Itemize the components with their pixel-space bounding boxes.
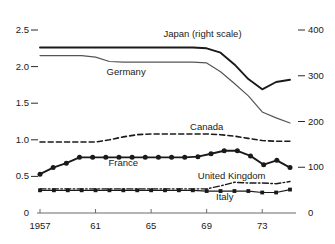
y-axis-tick-label-right: 300 xyxy=(308,71,324,81)
data-point-marker xyxy=(163,188,167,192)
chart-container: 00.51.01.52.02.5010020030040019576165697… xyxy=(0,0,335,244)
y-axis-tick-label-right: 100 xyxy=(308,162,324,172)
series-line-canada xyxy=(40,134,290,142)
x-axis-tick-label: 65 xyxy=(131,221,171,231)
y-axis-tick-label-left: 2.0 xyxy=(0,62,29,72)
data-point-marker xyxy=(260,191,264,195)
data-point-marker xyxy=(288,188,292,192)
data-point-marker xyxy=(51,165,56,170)
series-label-germany: Germany xyxy=(107,67,146,77)
data-point-marker xyxy=(177,188,181,192)
data-point-marker xyxy=(274,158,279,163)
data-point-marker xyxy=(222,148,227,153)
x-axis-tick-label: 69 xyxy=(187,221,227,231)
series-label-united-kingdom: United Kingdom xyxy=(198,171,266,181)
series-label-italy: Italy xyxy=(216,192,233,202)
series-label-japan-right-scale: Japan (right scale) xyxy=(163,29,241,39)
series-line-germany xyxy=(40,56,290,123)
series-label-canada: Canada xyxy=(190,122,223,132)
y-axis-tick-label-left: 2.5 xyxy=(0,25,29,35)
data-point-marker xyxy=(108,188,112,192)
data-point-marker xyxy=(195,154,200,159)
data-point-marker xyxy=(103,155,108,160)
data-point-marker xyxy=(149,188,153,192)
data-point-marker xyxy=(64,161,69,166)
data-point-marker xyxy=(182,155,187,160)
y-axis-tick-label-right: 200 xyxy=(308,117,324,127)
data-point-marker xyxy=(52,188,56,192)
data-point-marker xyxy=(77,155,82,160)
series-line-united-kingdom xyxy=(40,182,290,189)
y-axis-tick-label-left: 0 xyxy=(0,208,29,218)
data-point-marker xyxy=(38,172,43,177)
data-point-marker xyxy=(121,188,125,192)
data-point-marker xyxy=(235,148,240,153)
data-point-marker xyxy=(38,188,42,192)
data-point-marker xyxy=(205,189,209,193)
series-line-japan-right-scale xyxy=(40,48,290,90)
x-axis-tick-label: 61 xyxy=(76,221,116,231)
data-point-marker xyxy=(169,155,174,160)
data-point-marker xyxy=(191,188,195,192)
y-axis-tick-label-left: 1.0 xyxy=(0,135,29,145)
data-point-marker xyxy=(274,191,278,195)
data-point-marker xyxy=(156,155,161,160)
data-point-marker xyxy=(80,188,84,192)
data-point-marker xyxy=(209,151,214,156)
data-point-marker xyxy=(261,162,266,167)
data-point-marker xyxy=(66,188,70,192)
y-axis-tick-label-right: 400 xyxy=(308,25,324,35)
data-point-marker xyxy=(248,153,253,158)
y-axis-tick-label-left: 1.5 xyxy=(0,98,29,108)
x-axis-tick-label: 1957 xyxy=(20,221,60,231)
data-point-marker xyxy=(94,188,98,192)
y-axis-tick-label-right: 0 xyxy=(308,208,313,218)
series-label-france: France xyxy=(109,158,139,168)
x-axis-tick-label: 73 xyxy=(242,221,282,231)
data-point-marker xyxy=(135,188,139,192)
data-point-marker xyxy=(288,165,293,170)
data-point-marker xyxy=(143,155,148,160)
data-point-marker xyxy=(90,155,95,160)
y-axis-tick-label-left: 0.5 xyxy=(0,171,29,181)
data-point-marker xyxy=(246,189,250,193)
